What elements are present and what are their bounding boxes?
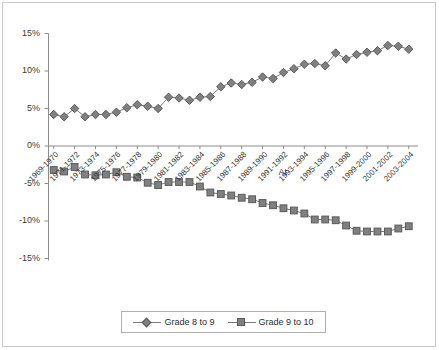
data-point-marker — [394, 42, 402, 50]
data-point-marker — [352, 50, 360, 58]
data-point-marker — [373, 47, 381, 55]
chart-annotation-text: At — [278, 167, 287, 177]
data-point-marker — [123, 104, 131, 112]
square-marker-icon — [237, 318, 245, 326]
data-point-marker — [405, 45, 413, 53]
data-point-marker — [269, 74, 277, 82]
y-axis-tick-label: 10% — [6, 65, 40, 75]
data-point-marker — [343, 222, 350, 229]
data-point-marker — [364, 228, 371, 235]
legend-entry-grade-8-to-9[interactable]: Grade 8 to 9 — [133, 317, 214, 328]
data-point-marker — [279, 68, 287, 76]
legend-label-grade-8-to-9: Grade 8 to 9 — [164, 317, 214, 327]
data-point-marker — [301, 210, 308, 217]
data-point-marker — [144, 102, 152, 110]
data-point-marker — [196, 93, 204, 101]
data-point-marker — [353, 227, 360, 234]
y-axis-tick-label: -10% — [6, 215, 40, 225]
data-point-marker — [384, 228, 391, 235]
data-point-marker — [363, 48, 371, 56]
data-point-marker — [311, 59, 319, 67]
data-point-marker — [249, 196, 256, 203]
data-point-marker — [311, 216, 318, 223]
legend-label-grade-9-to-10: Grade 9 to 10 — [259, 317, 314, 327]
legend-line-diamond-icon — [133, 317, 161, 328]
data-point-marker — [342, 55, 350, 63]
data-point-marker — [259, 200, 266, 207]
data-point-marker — [133, 101, 141, 109]
data-point-marker — [237, 80, 245, 88]
legend-line-square-icon — [228, 317, 256, 328]
y-axis-tick-label: 0% — [6, 140, 40, 150]
data-point-marker — [248, 78, 256, 86]
data-point-marker — [50, 110, 58, 118]
diamond-marker-icon — [142, 317, 152, 327]
y-axis-tick-label: 5% — [6, 103, 40, 113]
data-point-marker — [322, 216, 329, 223]
data-point-marker — [280, 205, 287, 212]
legend-entry-grade-9-to-10[interactable]: Grade 9 to 10 — [228, 317, 314, 328]
chart-legend: Grade 8 to 9 Grade 9 to 10 — [121, 311, 326, 333]
data-point-marker — [270, 202, 277, 209]
chart-container: 15%10%5%0%-5%-10%-15% 1969-19701971-1972… — [0, 0, 439, 350]
data-point-marker — [185, 96, 193, 104]
data-point-marker — [291, 207, 298, 214]
data-point-marker — [332, 217, 339, 224]
data-point-marker — [102, 110, 110, 118]
data-point-marker — [300, 60, 308, 68]
data-point-marker — [175, 94, 183, 102]
data-point-marker — [384, 41, 392, 49]
data-point-marker — [395, 225, 402, 232]
data-point-marker — [374, 228, 381, 235]
y-axis-tick-label: 15% — [6, 28, 40, 38]
data-point-marker — [227, 79, 235, 87]
y-axis-tick-label: -15% — [6, 253, 40, 263]
data-point-marker — [91, 110, 99, 118]
data-point-marker — [405, 223, 412, 230]
data-point-marker — [112, 108, 120, 116]
data-point-marker — [258, 73, 266, 81]
data-point-marker — [217, 191, 224, 198]
data-point-marker — [290, 65, 298, 73]
data-point-marker — [238, 194, 245, 201]
